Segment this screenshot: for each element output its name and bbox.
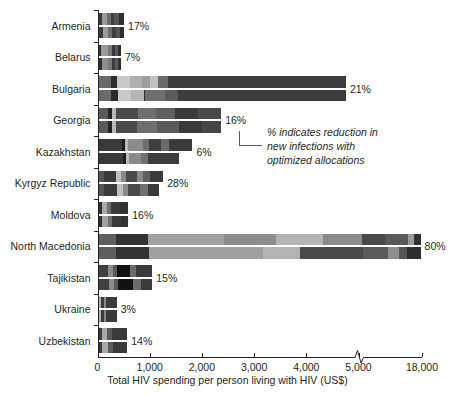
bar-segment — [99, 234, 116, 246]
y-axis-tick — [94, 262, 98, 263]
bar-optimized-north-macedonia — [99, 247, 421, 259]
bar-segment — [104, 184, 117, 196]
bar-optimized-belarus — [99, 58, 121, 70]
bar-segment — [363, 247, 388, 259]
bar-optimized-tajikistan — [99, 279, 153, 291]
bar-segment — [104, 171, 116, 183]
bar-segment — [120, 202, 128, 214]
bar-segment — [150, 171, 163, 183]
bar-segment — [111, 90, 118, 102]
bar-segment — [118, 90, 131, 102]
bar-segment — [148, 234, 224, 246]
bar-segment — [112, 216, 121, 228]
percent-label-tajikistan: 15% — [156, 273, 177, 284]
x-axis-tick-label: 4,000 — [276, 362, 336, 373]
x-axis-tick — [150, 353, 151, 357]
x-axis-tick-label: 2,000 — [172, 362, 232, 373]
bar-current-bulgaria — [99, 76, 346, 88]
bar-segment — [143, 171, 150, 183]
bar-segment — [99, 121, 109, 133]
x-axis-tick-label: 0 — [68, 362, 128, 373]
y-axis-tick — [94, 73, 98, 74]
bar-segment — [323, 234, 362, 246]
bar-segment — [141, 153, 148, 165]
bar-segment — [111, 202, 120, 214]
bar-segment — [161, 139, 169, 151]
bar-segment — [118, 45, 121, 57]
bar-segment — [99, 108, 109, 120]
bar-segment — [149, 247, 264, 259]
category-label-tajikistan: Tajikistan — [0, 273, 91, 284]
category-label-georgia: Georgia — [0, 115, 91, 126]
x-axis-tick-label: 5,000 — [329, 362, 389, 373]
bar-segment — [118, 279, 134, 291]
bar-segment — [128, 184, 140, 196]
y-axis-tick — [94, 42, 98, 43]
bar-segment — [145, 90, 164, 102]
bar-segment — [118, 58, 121, 70]
bar-segment — [399, 247, 406, 259]
y-axis-tick — [94, 168, 98, 169]
bar-current-north-macedonia — [99, 234, 421, 246]
bar-segment — [99, 153, 123, 165]
bar-current-ukraine — [99, 297, 117, 309]
bar-segment — [121, 216, 128, 228]
category-label-ukraine: Ukraine — [0, 304, 91, 315]
percent-label-ukraine: 3% — [121, 304, 136, 315]
bar-optimized-armenia — [99, 27, 125, 39]
x-axis-tick-label: 3,000 — [224, 362, 284, 373]
x-axis-tick — [306, 353, 307, 357]
bar-segment — [388, 247, 399, 259]
bar-segment — [116, 121, 137, 133]
bar-current-armenia — [99, 13, 125, 25]
x-axis-tick-label: 1,000 — [120, 362, 180, 373]
bar-segment — [202, 121, 222, 133]
annotation-leader-horizontal — [239, 145, 262, 146]
bar-segment — [198, 108, 221, 120]
bar-segment — [106, 297, 116, 309]
bar-segment — [141, 279, 152, 291]
y-axis-tick — [94, 231, 98, 232]
percent-label-kyrgyz-republic: 28% — [167, 178, 188, 189]
bar-segment — [116, 247, 148, 259]
bar-segment — [113, 342, 127, 354]
percent-label-uzbekistan: 14% — [131, 336, 152, 347]
percent-label-moldova: 16% — [132, 210, 153, 221]
bar-optimized-uzbekistan — [99, 342, 128, 354]
bar-segment — [300, 247, 363, 259]
category-label-kyrgyz-republic: Kyrgyz Republic — [0, 178, 91, 189]
bar-segment — [99, 76, 111, 88]
bar-segment — [165, 90, 179, 102]
x-axis-tick — [254, 353, 255, 357]
category-label-belarus: Belarus — [0, 52, 91, 63]
bar-segment — [99, 139, 122, 151]
bar-segment — [224, 234, 276, 246]
y-axis-tick — [94, 10, 98, 11]
bar-current-kazakhstan — [99, 139, 193, 151]
bar-optimized-bulgaria — [99, 90, 346, 102]
bar-segment — [102, 58, 109, 70]
bar-current-kyrgyz-republic — [99, 171, 164, 183]
x-axis-tick — [359, 353, 360, 357]
bar-segment — [414, 234, 420, 246]
bar-segment — [99, 265, 109, 277]
bar-segment — [362, 234, 385, 246]
x-axis-tick — [202, 353, 203, 357]
bar-segment — [117, 76, 130, 88]
bar-segment — [130, 76, 142, 88]
bar-segment — [178, 90, 346, 102]
bar-segment — [120, 27, 124, 39]
bar-segment — [99, 247, 117, 259]
bar-segment — [150, 76, 158, 88]
bar-segment — [149, 139, 160, 151]
bar-segment — [99, 90, 112, 102]
x-axis-line-left — [98, 357, 349, 358]
bar-segment — [138, 108, 156, 120]
bar-segment — [158, 76, 168, 88]
bar-segment — [106, 310, 116, 322]
bar-segment — [99, 279, 109, 291]
bar-segment — [148, 184, 159, 196]
x-axis-line-right — [369, 357, 423, 358]
category-label-north-macedonia: North Macedonia — [0, 241, 91, 252]
bar-segment — [116, 234, 148, 246]
